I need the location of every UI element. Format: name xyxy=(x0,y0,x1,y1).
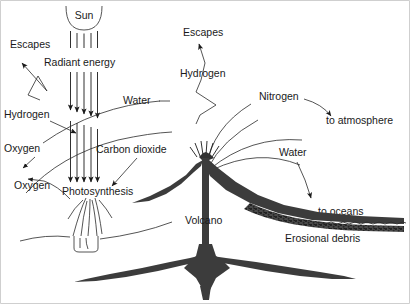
magma-chamber-icon xyxy=(74,244,356,300)
grass-tuft-icon xyxy=(68,198,112,252)
oxygen-upper-label: Oxygen xyxy=(4,142,40,154)
radiant-energy-rays-upper xyxy=(71,31,98,48)
erosional-debris-label: Erosional debris xyxy=(285,232,360,244)
carbon-dioxide-label: Carbon dioxide xyxy=(96,143,167,155)
water-left-label: Water xyxy=(123,94,151,106)
sun-label: Sun xyxy=(75,9,94,21)
escapes-right-label: Escapes xyxy=(183,26,223,38)
escapes-right-arrow xyxy=(199,44,205,63)
escapes-left-label: Escapes xyxy=(10,38,50,50)
to-atmosphere-label: to atmosphere xyxy=(326,114,393,126)
hydrogen-left-label: Hydrogen xyxy=(4,108,50,120)
water-right-arrow xyxy=(297,162,311,198)
hydrogen-right-label: Hydrogen xyxy=(180,67,226,79)
oxygen-upper-arrow xyxy=(23,157,35,168)
nitrogen-label: Nitrogen xyxy=(259,90,299,102)
carbon-dioxide-arrow xyxy=(112,158,137,186)
water-right-label: Water xyxy=(279,146,307,158)
volcano-label: Volcano xyxy=(185,214,223,226)
photosynthesis-label: Photosynthesis xyxy=(62,185,133,197)
hydrogen-left-arrow xyxy=(50,121,76,133)
radiant-energy-label: Radiant energy xyxy=(44,56,116,68)
volcano-icon xyxy=(132,141,404,256)
atmosphere-arc-water xyxy=(43,101,160,143)
oxygen-lower-label: Oxygen xyxy=(14,179,50,191)
diagram-canvas: Sun Radiant energy Escapes Hydrogen xyxy=(0,0,410,304)
radiant-energy-rays-mid xyxy=(71,72,98,118)
volcanic-plume-curves xyxy=(206,104,302,170)
